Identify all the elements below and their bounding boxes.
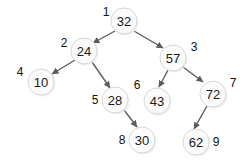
tree-node-10[interactable]: 104 (17, 65, 56, 97)
tree-node-32[interactable]: 321 (103, 5, 139, 36)
tree-edge-n5-to-n8 (124, 110, 137, 127)
tree-node-43[interactable]: 436 (134, 78, 172, 116)
tree-node-72[interactable]: 727 (200, 76, 237, 109)
tree-edge-n2-to-n5 (92, 62, 110, 88)
tree-edge-n3-to-n6 (159, 70, 168, 87)
tree-edge-n1-to-n3 (134, 31, 163, 48)
node-value-label: 62 (189, 135, 203, 150)
tree-node-62[interactable]: 629 (183, 129, 220, 157)
node-value-label: 72 (206, 87, 220, 102)
tree-edge-n1-to-n2 (93, 31, 115, 43)
node-value-label: 43 (150, 94, 164, 109)
node-value-label: 32 (117, 14, 131, 29)
node-value-label: 24 (77, 44, 91, 59)
node-value-label: 30 (135, 133, 149, 148)
tree-edge-n3-to-n7 (183, 67, 203, 82)
tree-node-24[interactable]: 242 (61, 36, 99, 66)
node-index-label: 8 (119, 133, 126, 147)
node-value-label: 28 (108, 93, 122, 108)
node-value-label: 10 (34, 75, 48, 90)
nodes-layer: 321242573104285436727308629 (17, 5, 237, 157)
node-index-label: 1 (103, 5, 110, 19)
node-index-label: 9 (213, 135, 220, 149)
node-index-label: 3 (191, 40, 198, 54)
tree-node-30[interactable]: 308 (119, 127, 157, 155)
tree-edge-n7-to-n9 (194, 106, 207, 129)
node-index-label: 5 (92, 93, 99, 107)
node-index-label: 6 (134, 78, 141, 92)
node-index-label: 4 (17, 65, 24, 79)
tree-node-57[interactable]: 573 (160, 40, 198, 73)
node-index-label: 2 (61, 36, 68, 50)
tree-edge-n2-to-n4 (52, 60, 75, 74)
node-value-label: 57 (166, 51, 180, 66)
node-index-label: 7 (230, 76, 237, 90)
tree-node-28[interactable]: 285 (92, 87, 130, 115)
binary-tree-diagram: 321242573104285436727308629 (0, 0, 249, 164)
